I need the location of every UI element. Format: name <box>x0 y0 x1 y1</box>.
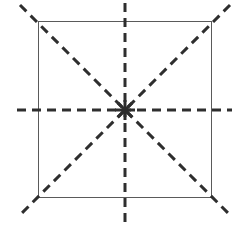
symmetry-diagram <box>0 0 249 230</box>
figure-canvas <box>0 0 249 230</box>
center-of-symmetry <box>115 100 135 120</box>
